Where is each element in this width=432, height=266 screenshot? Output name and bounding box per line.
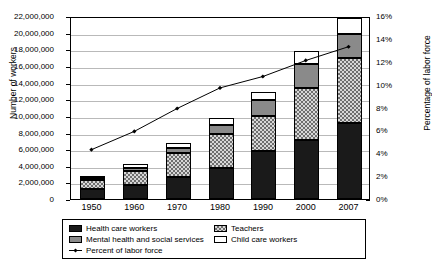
y-axis-right-title: Percentage of labor force [422, 3, 432, 163]
legend-item-line[interactable]: Percent of labor force [69, 246, 214, 255]
legend-item-mental[interactable]: Mental health and social services [69, 235, 214, 244]
legend-swatch-teachers-icon [214, 225, 227, 232]
line-marker-2007[interactable] [346, 45, 350, 49]
legend-row: Health care workersTeachers [69, 223, 359, 234]
y-axis-left-tick-label: 2,000,000 [0, 179, 54, 187]
legend-item-child[interactable]: Child care workers [214, 235, 359, 244]
line-marker-1960[interactable] [132, 129, 136, 133]
line-marker-1990[interactable] [261, 74, 265, 78]
legend-swatch-health-icon [69, 225, 82, 232]
y-axis-left-tick-label: 14,000,000 [0, 80, 54, 88]
y-axis-right-tick-label: 12% [376, 59, 416, 67]
y-axis-right-tick-mark [366, 200, 370, 201]
y-axis-left-tick-label: 22,000,000 [0, 13, 54, 21]
y-axis-right-tick-label: 16% [376, 13, 416, 21]
y-axis-right-tick-label: 10% [376, 82, 416, 90]
y-axis-left-tick-label: 4,000,000 [0, 163, 54, 171]
legend-swatch-line-icon [69, 247, 82, 254]
legend-label: Health care workers [86, 224, 157, 233]
y-axis-left-tick-label: 8,000,000 [0, 130, 54, 138]
line-marker-2000[interactable] [304, 58, 308, 62]
legend-swatch-child-icon [214, 236, 227, 243]
y-axis-right-tick-label: 2% [376, 173, 416, 181]
legend-row: Mental health and social servicesChild c… [69, 234, 359, 245]
line-marker-1980[interactable] [218, 86, 222, 90]
legend-item-teachers[interactable]: Teachers [214, 224, 359, 233]
y-axis-right-tick-label: 14% [376, 36, 416, 44]
y-axis-right-tick-label: 6% [376, 127, 416, 135]
legend-row: Percent of labor force [69, 245, 359, 256]
y-axis-left-tick-label: 0 [0, 196, 54, 204]
y-axis-right-tick-label: 0% [376, 196, 416, 204]
percent-of-labor-force-line [70, 17, 370, 200]
y-axis-left-tick-mark [66, 200, 70, 201]
line-marker-1950[interactable] [89, 148, 93, 152]
legend-swatch-mental-icon [69, 236, 82, 243]
legend-label: Child care workers [231, 235, 297, 244]
x-axis-label-2007: 2007 [324, 202, 374, 212]
y-axis-right-tick-label: 8% [376, 105, 416, 113]
y-axis-right-tick-label: 4% [376, 150, 416, 158]
legend-label: Teachers [231, 224, 263, 233]
y-axis-left-tick-label: 16,000,000 [0, 63, 54, 71]
y-axis-left-tick-label: 18,000,000 [0, 46, 54, 54]
legend-item-health[interactable]: Health care workers [69, 224, 214, 233]
y-axis-left-tick-label: 10,000,000 [0, 113, 54, 121]
legend-label: Percent of labor force [86, 246, 162, 255]
legend-label: Mental health and social services [86, 235, 204, 244]
y-axis-left-tick-label: 20,000,000 [0, 30, 54, 38]
chart-legend: Health care workersTeachersMental health… [62, 219, 366, 259]
y-axis-left-tick-label: 6,000,000 [0, 146, 54, 154]
y-axis-left-tick-label: 12,000,000 [0, 96, 54, 104]
line-path [91, 47, 348, 150]
line-marker-1970[interactable] [175, 106, 179, 110]
